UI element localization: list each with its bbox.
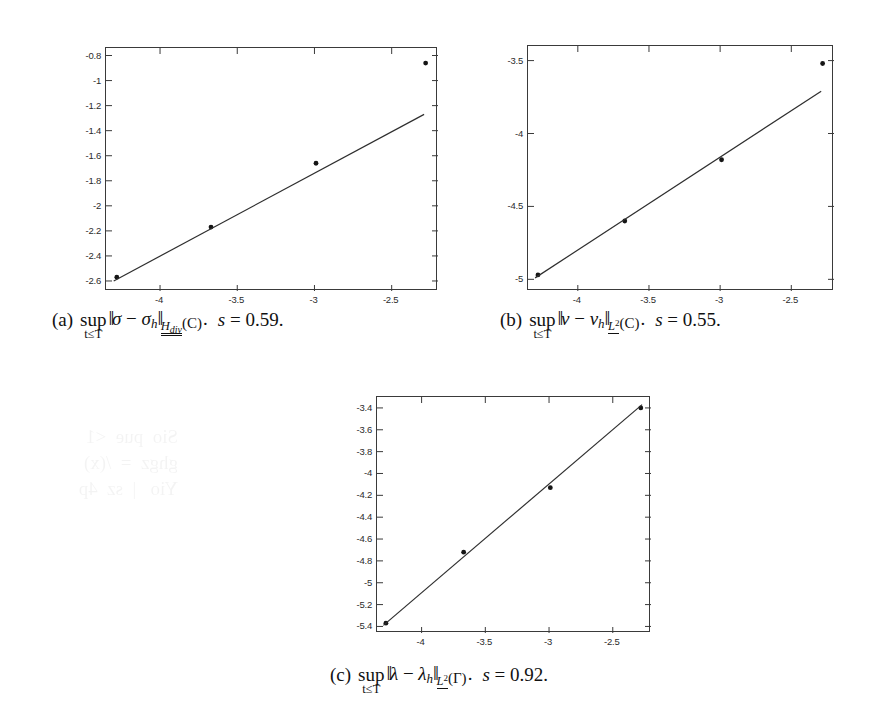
y-tick-label: -3.8 [342, 445, 372, 456]
caption-b-slope: s = 0.55. [655, 309, 721, 330]
plot-canvas-b [528, 46, 834, 291]
y-tick-label: -3.5 [493, 54, 523, 65]
caption-b-norm: ‖v − vh‖L2(C). [558, 308, 647, 329]
y-tick-label: -1.8 [71, 174, 101, 185]
caption-a: (a)supt≤T‖σ − σh‖Hdiv(C).s = 0.59. [52, 306, 283, 337]
y-tick-label: -4 [493, 127, 523, 138]
y-tick-label: -4.5 [493, 200, 523, 211]
x-tick-label: -2.5 [604, 636, 620, 647]
caption-c: (c)supt≤T‖λ − λh‖L2(Γ).s = 0.92. [330, 661, 548, 692]
y-tick-label: -4 [342, 467, 372, 478]
y-tick-label: -1.4 [71, 124, 101, 135]
caption-c-sup-operator: supt≤T [358, 665, 384, 696]
y-tick-label: -2.6 [71, 274, 101, 285]
x-tick-label: -3.5 [640, 294, 656, 305]
caption-b-norm-subscript: L2 [608, 319, 619, 334]
caption-a-label: (a) [52, 309, 73, 330]
caption-a-norm: ‖σ − σh‖Hdiv(C). [109, 308, 209, 329]
y-tick-label: -5.2 [342, 598, 372, 609]
y-tick-label: -1 [71, 74, 101, 85]
caption-b-sup-operator: supt≤T [529, 310, 555, 341]
y-tick-label: -4.4 [342, 511, 372, 522]
x-tick-label: -4 [417, 636, 425, 647]
caption-b-label: (b) [500, 309, 522, 330]
y-tick-label: -2.2 [71, 224, 101, 235]
caption-c-slope: s = 0.92. [482, 664, 548, 685]
plot-canvas-a [106, 48, 438, 291]
x-tick-label: -3 [715, 294, 723, 305]
plot-canvas-c [377, 397, 651, 633]
x-tick-label: -2.5 [783, 294, 799, 305]
y-tick-label: -5 [493, 273, 523, 284]
y-tick-label: -5 [342, 576, 372, 587]
caption-a-norm-subscript: Hdiv [161, 319, 182, 336]
y-tick-label: -3.4 [342, 401, 372, 412]
caption-c-norm-subscript: L2 [437, 674, 448, 689]
x-tick-label: -3.5 [477, 636, 493, 647]
caption-b: (b)supt≤T‖v − vh‖L2(C).s = 0.55. [500, 306, 721, 337]
caption-a-sup-operator: supt≤T [80, 310, 106, 341]
x-tick-label: -3 [544, 636, 552, 647]
caption-c-norm: ‖λ − λh‖L2(Γ). [387, 663, 474, 684]
y-tick-label: -3.6 [342, 423, 372, 434]
figure-root: Sio pue <1 ghgz = /(x) Yio | sz 4p -0.8-… [0, 0, 879, 727]
x-tick-label: -4 [155, 294, 163, 305]
y-tick-label: -4.8 [342, 554, 372, 565]
x-tick-label: -4 [573, 294, 581, 305]
x-tick-label: -2.5 [383, 294, 399, 305]
y-tick-label: -2.4 [71, 249, 101, 260]
x-tick-label: -3 [309, 294, 317, 305]
x-tick-label: -3.5 [228, 294, 244, 305]
plot-area-b [527, 45, 833, 290]
y-tick-label: -5.4 [342, 620, 372, 631]
caption-c-label: (c) [330, 664, 351, 685]
y-tick-label: -0.8 [71, 49, 101, 60]
plot-area-a [105, 47, 437, 290]
plot-area-c [376, 396, 650, 632]
y-tick-label: -4.6 [342, 533, 372, 544]
y-tick-label: -4.2 [342, 489, 372, 500]
caption-a-slope: s = 0.59. [218, 309, 284, 330]
y-tick-label: -1.6 [71, 149, 101, 160]
scan-bleed-artifact: Sio pue <1 ghgz = /(x) Yio | sz 4p [8, 424, 178, 514]
y-tick-label: -1.2 [71, 99, 101, 110]
y-tick-label: -2 [71, 199, 101, 210]
